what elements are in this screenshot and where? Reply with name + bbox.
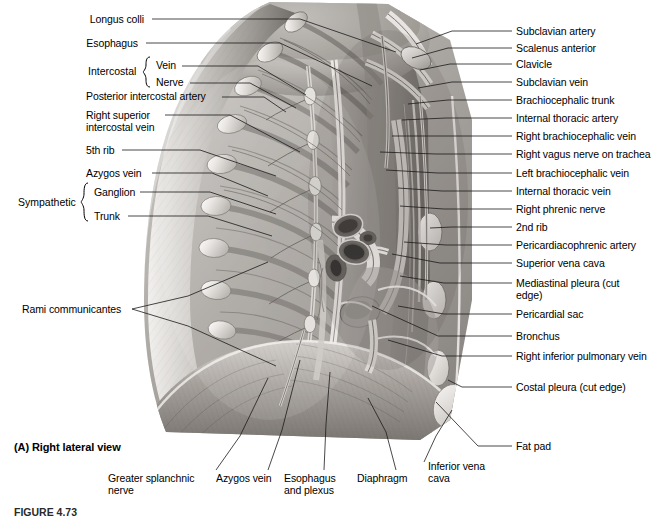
figure-number-caption: FIGURE 4.73: [14, 506, 77, 518]
label-intercostal-vein: Vein: [156, 59, 176, 71]
label-pericardial-sac: Pericardial sac: [516, 308, 583, 320]
label-internal-thoracic-vein: Internal thoracic vein: [516, 185, 611, 197]
label-intercostal-group: Intercostal: [88, 65, 136, 77]
label-fat-pad: Fat pad: [516, 440, 551, 452]
label-greater-splanchnic-nerve: Greater splanchnic nerve: [108, 472, 216, 497]
label-inferior-vena-cava: Inferior vena cava: [428, 460, 500, 485]
label-intercostal-nerve: Nerve: [156, 76, 184, 88]
label-2nd-rib: 2nd rib: [516, 221, 547, 233]
label-clavicle: Clavicle: [516, 58, 552, 70]
label-mediastinal-pleura: Mediastinal pleura (cut edge): [516, 277, 636, 302]
label-subclavian-vein: Subclavian vein: [516, 76, 588, 88]
label-bronchus: Bronchus: [516, 330, 560, 342]
label-azygos-vein-bottom: Azygos vein: [216, 472, 272, 484]
label-scalenus-anterior: Scalenus anterior: [516, 42, 596, 54]
view-caption: (A) Right lateral view: [14, 441, 121, 453]
label-right-superior-intercostal-vein: Right superior intercostal vein: [86, 109, 172, 134]
label-right-brachiocephalic-vein: Right brachiocephalic vein: [516, 130, 636, 142]
anatomical-illustration: [120, 0, 520, 462]
label-sympathetic-ganglion: Ganglion: [94, 186, 135, 198]
label-esophagus: Esophagus: [22, 37, 138, 49]
label-right-inferior-pulmonary-vein: Right inferior pulmonary vein: [516, 350, 648, 362]
label-azygos-vein: Azygos vein: [86, 167, 142, 179]
sympathetic-brace: [80, 182, 90, 222]
label-sympathetic-group: Sympathetic: [18, 196, 76, 208]
label-right-phrenic-nerve: Right phrenic nerve: [516, 203, 605, 215]
label-costal-pleura: Costal pleura (cut edge): [516, 381, 626, 393]
label-right-vagus-nerve-on-trachea: Right vagus nerve on trachea: [516, 148, 650, 160]
label-superior-vena-cava: Superior vena cava: [516, 257, 605, 269]
label-sympathetic-trunk: Trunk: [94, 210, 120, 222]
label-pericardiacophrenic-artery: Pericardiacophrenic artery: [516, 239, 636, 251]
intercostal-brace: [142, 56, 152, 88]
label-subclavian-artery: Subclavian artery: [516, 25, 595, 37]
label-esophagus-and-plexus: Esophagus and plexus: [284, 472, 350, 497]
label-brachiocephalic-trunk: Brachiocephalic trunk: [516, 94, 614, 106]
label-internal-thoracic-artery: Internal thoracic artery: [516, 112, 618, 124]
label-longus-colli: Longus colli: [22, 13, 144, 25]
label-diaphragm: Diaphragm: [357, 472, 407, 484]
label-5th-rib: 5th rib: [86, 144, 114, 156]
label-posterior-intercostal-artery: Posterior intercostal artery: [86, 90, 206, 102]
label-left-brachiocephalic-vein: Left brachiocephalic vein: [516, 167, 629, 179]
label-rami-communicantes: Rami communicantes: [22, 303, 121, 315]
